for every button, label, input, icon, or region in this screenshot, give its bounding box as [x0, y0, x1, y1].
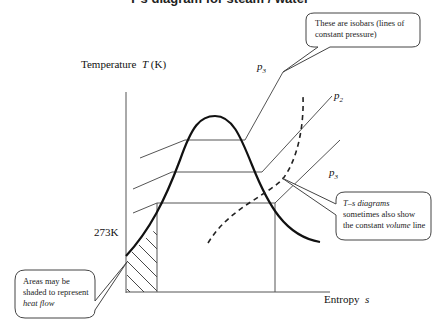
- isobar-low: [133, 140, 340, 213]
- y-axis-label: Temperature T (K): [81, 58, 166, 70]
- callout-volume-text: T–s diagrams sometimes also show the con…: [343, 198, 431, 231]
- saturation-dome: [126, 116, 320, 256]
- isobar-top: [140, 72, 283, 158]
- tick-273k: 273K: [94, 226, 118, 238]
- ts-diagram: [0, 0, 438, 322]
- heat-flow-hatch: [110, 188, 200, 322]
- isobar-label-mid: p2: [334, 89, 343, 104]
- callout-isobars-text: These are isobars (lines of constant pre…: [315, 18, 415, 40]
- x-axis-label: Entropy s: [324, 293, 369, 305]
- isobar-label-low: p3: [329, 166, 338, 181]
- isobar-mid: [133, 96, 332, 189]
- isobar-label-top: p3: [257, 60, 266, 75]
- callout-heat-text: Areas may be shaded to represent heat fl…: [23, 276, 95, 309]
- constant-volume-line: [208, 97, 303, 243]
